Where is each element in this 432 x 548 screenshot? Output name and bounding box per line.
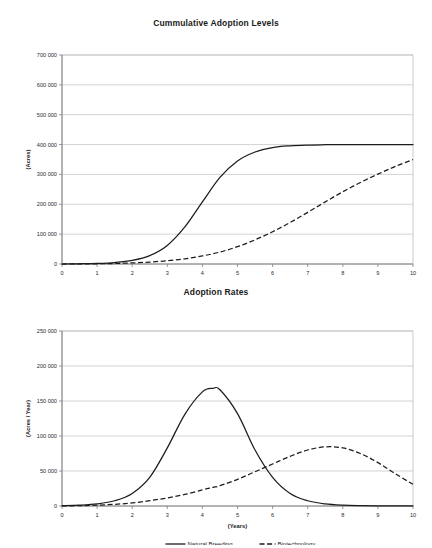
plot-frame xyxy=(62,55,413,264)
x-tick-label: 4 xyxy=(201,270,204,276)
cumulative-adoption-chart: Cummulative Adoption Levels 0100 000200 … xyxy=(0,0,432,285)
y-tick-label: 400 000 xyxy=(37,142,57,148)
y-tick-label: 300 000 xyxy=(37,171,57,177)
x-tick-label: 5 xyxy=(236,512,239,518)
y-tick-label: 150 000 xyxy=(37,398,57,404)
x-tick-label: 9 xyxy=(376,512,379,518)
x-tick-label: 1 xyxy=(96,512,99,518)
x-tick-label: 7 xyxy=(306,270,309,276)
adoption-rates-plot: 050 000100 000150 000200 000250 00001234… xyxy=(0,297,432,545)
y-tick-label: 100 000 xyxy=(37,231,57,237)
x-tick-label: 6 xyxy=(271,512,274,518)
x-tick-label: 2 xyxy=(131,512,134,518)
y-tick-label: 500 000 xyxy=(37,112,57,118)
x-tick-label: 10 xyxy=(410,512,416,518)
x-axis-label: (Years) xyxy=(228,523,247,529)
x-tick-label: 6 xyxy=(271,270,274,276)
x-tick-label: 7 xyxy=(306,512,309,518)
y-axis-label: (Acres) xyxy=(25,149,31,169)
y-tick-label: 700 000 xyxy=(37,52,57,58)
y-tick-label: 100 000 xyxy=(37,433,57,439)
y-tick-label: 50 000 xyxy=(40,468,57,474)
x-tick-label: 10 xyxy=(410,270,416,276)
x-tick-label: 1 xyxy=(96,270,99,276)
x-tick-label: 3 xyxy=(166,270,169,276)
x-tick-label: 5 xyxy=(236,270,239,276)
plot-area-rates: 050 000100 000150 000200 000250 00001234… xyxy=(0,297,432,545)
y-tick-label: 250 000 xyxy=(37,328,57,334)
chart-title-cumulative: Cummulative Adoption Levels xyxy=(0,0,432,28)
x-tick-label: 0 xyxy=(60,270,63,276)
y-tick-label: 0 xyxy=(54,261,57,267)
plot-area-cumulative: 0100 000200 000300 000400 000500 000600 … xyxy=(0,28,432,278)
y-tick-label: 600 000 xyxy=(37,82,57,88)
y-axis-label: (Acres / Year) xyxy=(25,400,31,437)
legend-label-0: Natural Breeding xyxy=(188,541,233,545)
y-tick-label: 0 xyxy=(54,503,57,509)
y-tick-label: 200 000 xyxy=(37,363,57,369)
series-line-biotechnology xyxy=(62,447,413,506)
chart-title-rates: Adoption Rates xyxy=(0,283,432,297)
x-tick-label: 8 xyxy=(341,512,344,518)
series-line-natural-breeding xyxy=(62,387,413,506)
series-line-biotechnology xyxy=(62,160,413,265)
x-tick-label: 0 xyxy=(60,512,63,518)
x-tick-label: 8 xyxy=(341,270,344,276)
x-tick-label: 3 xyxy=(166,512,169,518)
adoption-rates-chart: Adoption Rates 050 000100 000150 000200 … xyxy=(0,283,432,548)
x-tick-label: 2 xyxy=(131,270,134,276)
x-tick-label: 4 xyxy=(201,512,204,518)
cumulative-adoption-plot: 0100 000200 000300 000400 000500 000600 … xyxy=(0,28,432,278)
legend-label-1: Biotechnology xyxy=(278,541,316,545)
x-tick-label: 9 xyxy=(376,270,379,276)
y-tick-label: 200 000 xyxy=(37,201,57,207)
